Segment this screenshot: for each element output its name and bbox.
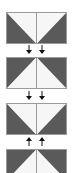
fold-diagram-v-icon	[6, 103, 67, 135]
arrow-down-icon	[26, 45, 32, 54]
fold-panel-2	[6, 57, 67, 89]
fold-panel-1	[6, 12, 67, 44]
arrow-down-icon	[39, 45, 45, 54]
fold-panel-4	[6, 149, 67, 173]
fold-diagram-v-icon	[6, 12, 67, 44]
arrow-up-icon	[26, 137, 32, 146]
fold-panel-3	[6, 103, 67, 135]
fold-diagram-peak-icon	[6, 57, 67, 89]
arrow-up-icon	[39, 137, 45, 146]
arrow-down-icon	[26, 91, 32, 100]
arrow-down-icon	[39, 91, 45, 100]
fold-diagram-peak-icon	[6, 149, 67, 173]
